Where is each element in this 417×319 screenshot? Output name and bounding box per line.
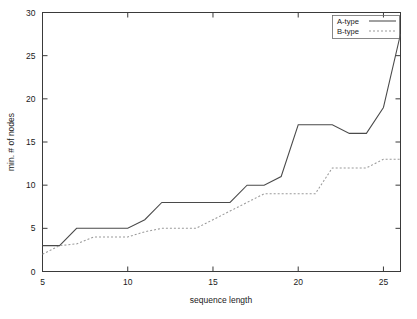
chart-figure: 051015202530 510152025 sequence length m… (0, 0, 417, 319)
series-line-b-type (43, 159, 401, 254)
line-chart: 051015202530 510152025 sequence length m… (0, 0, 417, 319)
x-tick-label: 25 (379, 277, 389, 287)
x-axis-title: sequence length (190, 295, 253, 305)
legend-label-a-type: A-type (337, 17, 359, 26)
y-axis-title: min. # of nodes (6, 113, 16, 171)
x-axis-ticks (43, 13, 384, 272)
x-axis-tick-labels: 510152025 (40, 277, 388, 287)
y-tick-label: 30 (26, 8, 36, 18)
series-line-a-type (43, 34, 401, 246)
y-tick-label: 20 (26, 94, 36, 104)
chart-legend: A-type B-type (333, 16, 400, 39)
y-tick-label: 0 (31, 267, 36, 277)
y-tick-label: 25 (26, 51, 36, 61)
y-axis-tick-labels: 051015202530 (26, 8, 36, 277)
y-tick-label: 15 (26, 137, 36, 147)
x-tick-label: 15 (208, 277, 218, 287)
y-tick-label: 5 (31, 223, 36, 233)
y-axis-ticks (43, 13, 401, 272)
x-tick-label: 5 (40, 277, 45, 287)
plot-frame (43, 13, 401, 272)
y-tick-label: 10 (26, 180, 36, 190)
legend-label-b-type: B-type (337, 27, 359, 36)
x-tick-label: 20 (293, 277, 303, 287)
x-tick-label: 10 (123, 277, 133, 287)
